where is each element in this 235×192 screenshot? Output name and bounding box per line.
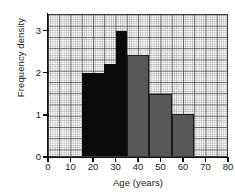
x-axis-tick-label: 80: [217, 162, 235, 172]
histogram-bar: [149, 94, 172, 158]
y-axis-line: [47, 13, 48, 158]
histogram-figure: 0123 01020304050607080 Frequency density…: [0, 0, 235, 192]
y-axis-tick-label: 2: [29, 68, 41, 78]
histogram-bar: [172, 114, 195, 157]
x-axis-tick-label: 20: [82, 162, 104, 172]
plot-area: [48, 14, 228, 157]
x-axis-tick-label: 40: [127, 162, 149, 172]
histogram-bar: [104, 64, 115, 157]
x-axis-tick-label: 70: [195, 162, 217, 172]
y-axis-tick-label: 1: [29, 110, 41, 120]
x-axis-tick-label: 60: [172, 162, 194, 172]
y-axis-tick-label: 3: [29, 26, 41, 36]
y-axis-tick: [43, 72, 49, 73]
x-axis-tick-label: 30: [105, 162, 127, 172]
y-axis-title: Frequency density: [15, 0, 26, 122]
x-axis-tick-label: 0: [37, 162, 59, 172]
y-axis-tick-label: 0: [29, 152, 41, 162]
histogram-bar: [116, 31, 127, 157]
y-axis-tick: [43, 114, 49, 115]
x-axis-tick-label: 10: [60, 162, 82, 172]
histogram-bar: [127, 55, 150, 157]
x-axis-title: Age (years): [48, 177, 228, 188]
histogram-bar: [82, 73, 105, 157]
y-axis-tick: [43, 30, 49, 31]
x-axis-tick-label: 50: [150, 162, 172, 172]
